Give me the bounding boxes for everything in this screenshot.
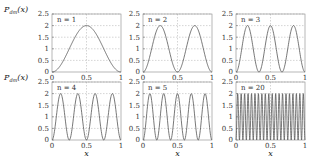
y-tick-label: 0 [136, 136, 140, 144]
x-tick-label: 1 [119, 74, 123, 82]
n-annotation: n = 5 [148, 84, 167, 92]
y-tick-label: 0 [136, 68, 140, 76]
panel-n-2: 00.511.522.500.51n = 2 [129, 10, 214, 82]
y-tick-label: 1 [136, 113, 140, 121]
y-tick-label: 0.5 [38, 125, 49, 133]
y-tick-label: 1.5 [38, 34, 49, 42]
x-axis-label: x [84, 149, 89, 157]
y-tick-label: 0 [45, 68, 49, 76]
y-tick-label: 2 [136, 22, 140, 30]
y-tick-label: 0.5 [38, 57, 49, 65]
y-tick-label: 2 [45, 22, 49, 30]
n-annotation: n = 2 [148, 16, 167, 24]
x-tick-label: 1 [210, 74, 214, 82]
y-tick-label: 0 [229, 136, 233, 144]
y-tick-label: 2 [45, 90, 49, 98]
y-tick-label: 1 [45, 45, 49, 53]
x-tick-label: 0 [234, 142, 238, 150]
x-tick-label: 0.5 [81, 74, 92, 82]
x-axis-label: x [268, 149, 273, 157]
x-tick-label: 0 [141, 74, 145, 82]
x-tick-label: 0 [50, 142, 54, 150]
x-axis-label: x [175, 149, 180, 157]
y-tick-label: 0 [45, 136, 49, 144]
y-tick-label: 0.5 [222, 57, 233, 65]
y-tick-label: 2 [229, 22, 233, 30]
y-tick-label: 1 [229, 113, 233, 121]
y-tick-label: 1.5 [222, 34, 233, 42]
y-tick-label: 2.5 [222, 10, 233, 18]
y-tick-label: 0.5 [129, 57, 140, 65]
y-tick-label: 2.5 [129, 10, 140, 18]
x-tick-label: 0 [234, 74, 238, 82]
y-tick-label: 0.5 [129, 125, 140, 133]
y-tick-label: 1.5 [222, 102, 233, 110]
y-tick-label: 1.5 [38, 102, 49, 110]
panel-n-4: 00.511.522.500.51n = 4xPdm(x) [3, 73, 123, 157]
figure: 00.511.522.500.51n = 1Pdm(x)00.511.522.5… [0, 0, 312, 157]
x-tick-label: 0.5 [265, 74, 276, 82]
x-tick-label: 1 [210, 142, 214, 150]
y-tick-label: 1 [229, 45, 233, 53]
y-axis-label: Pdm(x) [3, 5, 28, 15]
x-tick-label: 0 [50, 74, 54, 82]
y-tick-label: 2.5 [38, 10, 49, 18]
x-tick-label: 1 [303, 142, 307, 150]
y-tick-label: 2.5 [129, 78, 140, 86]
y-tick-label: 2 [136, 90, 140, 98]
n-annotation: n = 4 [57, 84, 77, 92]
x-tick-label: 0.5 [172, 74, 183, 82]
y-tick-label: 1.5 [129, 34, 140, 42]
y-tick-label: 2.5 [38, 78, 49, 86]
y-tick-label: 2.5 [222, 78, 233, 86]
y-tick-label: 1 [45, 113, 49, 121]
x-tick-label: 1 [119, 142, 123, 150]
y-tick-label: 0.5 [222, 125, 233, 133]
n-annotation: n = 20 [241, 84, 265, 92]
panel-n-20: 00.511.522.500.51n = 20x [222, 78, 307, 157]
y-tick-label: 0 [229, 68, 233, 76]
n-annotation: n = 3 [241, 16, 260, 24]
n-annotation: n = 1 [57, 16, 76, 24]
panel-n-3: 00.511.522.500.51n = 3 [222, 10, 307, 82]
y-tick-label: 1 [136, 45, 140, 53]
x-tick-label: 0 [141, 142, 145, 150]
panel-n-1: 00.511.522.500.51n = 1Pdm(x) [3, 5, 123, 82]
y-axis-label: Pdm(x) [3, 73, 28, 83]
y-tick-label: 2 [229, 90, 233, 98]
x-tick-label: 1 [303, 74, 307, 82]
y-tick-label: 1.5 [129, 102, 140, 110]
panel-n-5: 00.511.522.500.51n = 5x [129, 78, 214, 157]
